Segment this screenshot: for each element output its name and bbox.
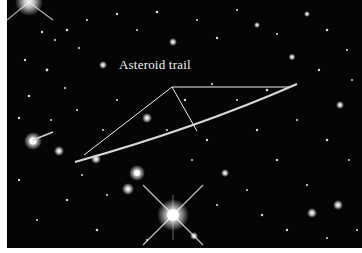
star-field-photo: Asteroid trail xyxy=(7,0,362,248)
star-field-graphic xyxy=(7,0,362,248)
asteroid-trail-label: Asteroid trail xyxy=(119,57,191,73)
